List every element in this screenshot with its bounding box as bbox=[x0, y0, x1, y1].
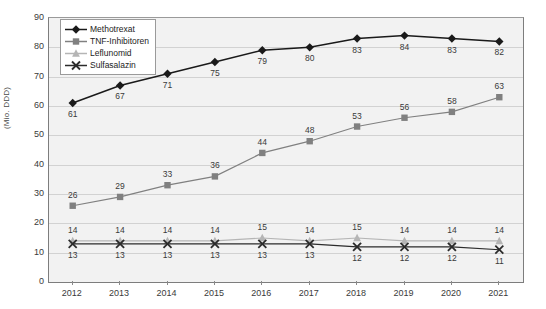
x-tick-mark bbox=[498, 281, 499, 285]
point-label: 48 bbox=[305, 125, 314, 135]
cross-marker-icon bbox=[65, 60, 87, 71]
point-label: 14 bbox=[163, 225, 172, 235]
y-tick-label: 60 bbox=[18, 100, 44, 110]
point-label: 14 bbox=[305, 225, 314, 235]
y-tick-label: 70 bbox=[18, 71, 44, 81]
point-label: 84 bbox=[400, 42, 409, 52]
point-label: 13 bbox=[68, 250, 77, 260]
point-label: 14 bbox=[495, 225, 504, 235]
diamond-marker-icon bbox=[65, 24, 87, 35]
legend-item-methotrexat[interactable]: Methotrexat bbox=[65, 23, 149, 35]
legend-label: Methotrexat bbox=[90, 24, 135, 34]
x-tick-label: 2017 bbox=[299, 288, 319, 298]
x-tick-label: 2021 bbox=[488, 288, 508, 298]
point-label: 12 bbox=[352, 253, 361, 263]
x-tick-mark bbox=[72, 281, 73, 285]
point-label: 82 bbox=[495, 47, 504, 57]
point-label: 15 bbox=[352, 222, 361, 232]
x-tick-label: 2018 bbox=[346, 288, 366, 298]
legend-item-leflunomid[interactable]: Leflunomid bbox=[65, 47, 149, 59]
x-tick-mark bbox=[261, 281, 262, 285]
point-label: 13 bbox=[163, 250, 172, 260]
x-tick-mark bbox=[404, 281, 405, 285]
x-tick-label: 2013 bbox=[109, 288, 129, 298]
point-label: 11 bbox=[495, 256, 504, 266]
point-label: 13 bbox=[258, 250, 267, 260]
point-label: 67 bbox=[115, 91, 124, 101]
x-tick-label: 2012 bbox=[62, 288, 82, 298]
series-sulfasalazin bbox=[69, 240, 504, 254]
point-label: 26 bbox=[68, 190, 77, 200]
y-tick-label: 40 bbox=[18, 159, 44, 169]
point-label: 61 bbox=[68, 109, 77, 119]
point-label: 13 bbox=[305, 250, 314, 260]
point-label: 53 bbox=[352, 111, 361, 121]
y-tick-label: 50 bbox=[18, 129, 44, 139]
y-tick-label: 10 bbox=[18, 247, 44, 257]
y-tick-label: 30 bbox=[18, 188, 44, 198]
x-tick-mark bbox=[167, 281, 168, 285]
point-label: 14 bbox=[68, 225, 77, 235]
x-tick-mark bbox=[356, 281, 357, 285]
legend-label: Leflunomid bbox=[90, 48, 132, 58]
chart-legend: MethotrexatTNF-InhibitorenLeflunomidSulf… bbox=[60, 19, 156, 75]
point-label: 14 bbox=[400, 225, 409, 235]
point-label: 12 bbox=[447, 253, 456, 263]
point-label: 13 bbox=[115, 250, 124, 260]
line-chart: (Mio. DDD) 0102030405060708090 616771757… bbox=[0, 0, 546, 309]
series-leflunomid bbox=[69, 234, 503, 244]
point-label: 80 bbox=[305, 53, 314, 63]
legend-label: Sulfasalazin bbox=[90, 60, 136, 70]
point-label: 58 bbox=[447, 96, 456, 106]
point-label: 44 bbox=[258, 137, 267, 147]
legend-item-tnf-inhibitoren[interactable]: TNF-Inhibitoren bbox=[65, 35, 149, 47]
point-label: 14 bbox=[115, 225, 124, 235]
y-tick-label: 0 bbox=[18, 276, 44, 286]
x-tick-label: 2015 bbox=[204, 288, 224, 298]
point-label: 13 bbox=[210, 250, 219, 260]
x-tick-mark bbox=[451, 281, 452, 285]
point-label: 36 bbox=[210, 160, 219, 170]
point-label: 83 bbox=[447, 45, 456, 55]
legend-item-sulfasalazin[interactable]: Sulfasalazin bbox=[65, 59, 149, 71]
square-marker-icon bbox=[65, 36, 87, 47]
point-label: 14 bbox=[447, 225, 456, 235]
x-tick-mark bbox=[214, 281, 215, 285]
point-label: 12 bbox=[400, 253, 409, 263]
y-axis: 0102030405060708090 bbox=[10, 0, 44, 309]
triangle-marker-icon bbox=[65, 48, 87, 59]
point-label: 29 bbox=[115, 181, 124, 191]
point-label: 14 bbox=[210, 225, 219, 235]
x-tick-mark bbox=[309, 281, 310, 285]
point-label: 15 bbox=[258, 222, 267, 232]
point-label: 33 bbox=[163, 169, 172, 179]
point-label: 83 bbox=[352, 45, 361, 55]
x-tick-label: 2014 bbox=[156, 288, 176, 298]
legend-label: TNF-Inhibitoren bbox=[90, 36, 149, 46]
point-label: 71 bbox=[163, 80, 172, 90]
x-tick-label: 2016 bbox=[251, 288, 271, 298]
y-tick-label: 80 bbox=[18, 41, 44, 51]
series-tnf-inhibitoren bbox=[70, 94, 503, 209]
point-label: 56 bbox=[400, 102, 409, 112]
point-label: 63 bbox=[495, 81, 504, 91]
x-tick-label: 2020 bbox=[441, 288, 461, 298]
x-tick-label: 2019 bbox=[393, 288, 413, 298]
y-tick-label: 90 bbox=[18, 12, 44, 22]
y-tick-label: 20 bbox=[18, 217, 44, 227]
point-label: 75 bbox=[210, 68, 219, 78]
x-tick-mark bbox=[119, 281, 120, 285]
point-label: 79 bbox=[258, 56, 267, 66]
